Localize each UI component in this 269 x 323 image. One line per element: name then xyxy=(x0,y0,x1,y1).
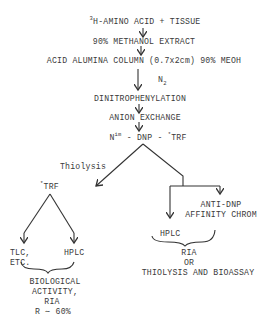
result-left-4: R ∼ 60% xyxy=(35,307,71,316)
line-trf-left xyxy=(24,194,50,233)
node-hplc-left: HPLC xyxy=(64,248,84,257)
node-affinity-chrom: AFFINITY CHROM xyxy=(185,210,257,219)
line-right-branch xyxy=(143,144,183,186)
label-thiolysis: Thiolysis xyxy=(60,162,106,171)
line-trf-right xyxy=(50,194,74,233)
node-hplc-right: HPLC xyxy=(160,229,180,238)
node-column: ACID ALUMINA COLUMN (0.7x2cm) 90% MEOH xyxy=(47,56,241,65)
node-tlc: TLC, xyxy=(10,248,30,257)
label-n2: N2 xyxy=(158,75,167,84)
result-right-2: OR xyxy=(184,258,194,267)
node-product: Nim - DNP - *TRF xyxy=(109,133,186,142)
node-trf: *TRF xyxy=(40,182,59,191)
node-extract: 90% METHANOL EXTRACT xyxy=(93,37,195,46)
result-left-2: ACTIVITY, xyxy=(32,287,78,296)
node-anion-exchange: ANION EXCHANGE xyxy=(109,113,181,122)
result-left-1: BIOLOGICAL xyxy=(29,277,80,286)
result-left-3: RIA xyxy=(44,297,59,306)
node-etc: ETC. xyxy=(10,258,30,267)
node-start: 3H-AMINO ACID + TISSUE xyxy=(90,17,201,26)
result-right-1: RIA xyxy=(181,248,196,257)
node-dinitrophenylation: DINITROPHENYLATION xyxy=(94,94,186,103)
result-right-3: THIOLYSIS AND BIOASSAY xyxy=(142,268,255,277)
node-anti-dnp: ANTI-DNP xyxy=(201,200,242,209)
